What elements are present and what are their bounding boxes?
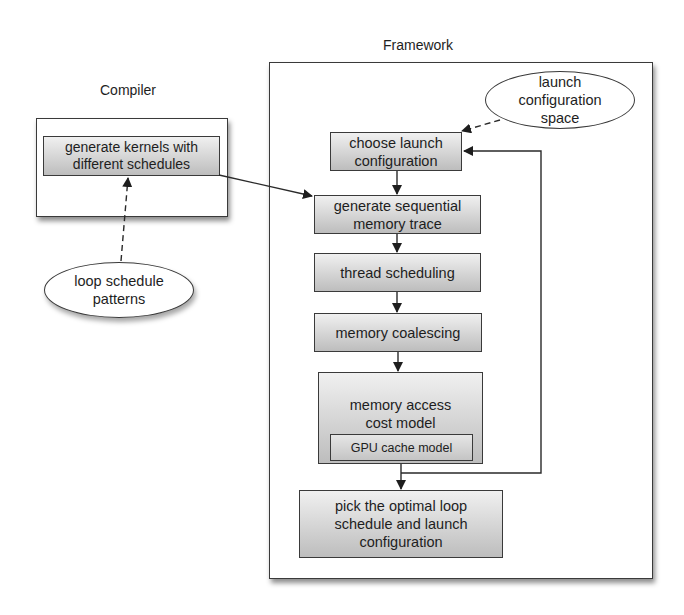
pick-optimal-line3: configuration bbox=[334, 533, 467, 551]
generate-trace-line1: generate sequential bbox=[334, 197, 461, 215]
generate-kernels-line2: different schedules bbox=[65, 156, 198, 173]
generate-trace-line2: memory trace bbox=[334, 215, 461, 233]
gpu-cache-model-box: GPU cache model bbox=[330, 434, 473, 461]
generate-kernels-step: generate kernels with different schedule… bbox=[43, 136, 220, 176]
loop-schedule-line2: patterns bbox=[74, 290, 164, 308]
thread-scheduling-step: thread scheduling bbox=[314, 253, 481, 292]
thread-scheduling-text: thread scheduling bbox=[340, 264, 454, 282]
memory-coalescing-text: memory coalescing bbox=[336, 324, 461, 342]
pick-optimal-line1: pick the optimal loop bbox=[334, 497, 467, 515]
cost-model-line2: cost model bbox=[350, 414, 452, 432]
choose-launch-line2: configuration bbox=[349, 152, 443, 170]
generate-kernels-line1: generate kernels with bbox=[65, 139, 198, 156]
launch-space-line3: space bbox=[518, 109, 601, 127]
memory-coalescing-step: memory coalescing bbox=[314, 313, 482, 352]
launch-space-line2: configuration bbox=[518, 91, 601, 109]
gpu-cache-model-text: GPU cache model bbox=[351, 441, 452, 455]
launch-configuration-space-ellipse: launch configuration space bbox=[485, 71, 635, 129]
choose-launch-configuration-step: choose launch configuration bbox=[330, 132, 462, 171]
launch-space-line1: launch bbox=[518, 73, 601, 91]
compiler-label: Compiler bbox=[78, 82, 178, 98]
loop-schedule-patterns-ellipse: loop schedule patterns bbox=[44, 262, 194, 318]
choose-launch-line1: choose launch bbox=[349, 134, 443, 152]
cost-model-line1: memory access bbox=[350, 396, 452, 414]
loop-schedule-line1: loop schedule bbox=[74, 272, 164, 290]
pick-optimal-line2: schedule and launch bbox=[334, 515, 467, 533]
generate-memory-trace-step: generate sequential memory trace bbox=[314, 195, 481, 234]
pick-optimal-step: pick the optimal loop schedule and launc… bbox=[299, 490, 503, 558]
framework-label: Framework bbox=[368, 37, 468, 53]
